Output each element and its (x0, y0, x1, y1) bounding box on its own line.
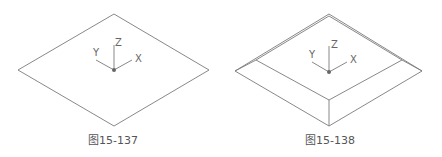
figure-caption-15-137: 图15-137 (88, 131, 138, 147)
axis-label-z: Z (331, 39, 338, 50)
axis-label-y: Y (92, 47, 100, 58)
ucs-icon (312, 46, 347, 74)
figure-15-137-drawing (18, 14, 209, 126)
axis-label-x: X (350, 54, 357, 65)
axis-label-y: Y (308, 49, 316, 60)
axis-label-z: Z (115, 37, 122, 48)
figure-15-138-drawing (235, 14, 422, 126)
top-edge-left (235, 14, 422, 71)
ucs-icon (96, 45, 132, 72)
bottom-edge (235, 71, 422, 126)
axis-label-x: X (135, 53, 142, 64)
figures-canvas: Z Y X Z Y X (0, 0, 442, 157)
figure-caption-15-138: 图15-138 (305, 131, 355, 147)
